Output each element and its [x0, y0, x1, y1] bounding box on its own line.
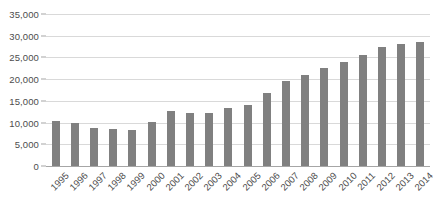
x-tick-label: 1999 [125, 170, 148, 193]
bar [320, 68, 328, 166]
bar [244, 105, 252, 166]
x-tick-label: 2009 [317, 170, 340, 193]
bar [340, 62, 348, 166]
x-tick-label: 2005 [240, 170, 263, 193]
bar-slot [123, 14, 142, 166]
bar-chart: 05,00010,00015,00020,00025,00030,00035,0… [0, 0, 435, 216]
x-tick-label: 2010 [336, 170, 359, 193]
y-tick-label: 20,000 [9, 74, 39, 85]
x-tick-label: 1998 [105, 170, 128, 193]
x-tick-label: 2012 [374, 170, 397, 193]
y-tick-label: 10,000 [9, 117, 39, 128]
bar-slot [411, 14, 430, 166]
bar [416, 42, 424, 166]
bar [282, 81, 290, 166]
bar-slot [392, 14, 411, 166]
bar-slot [315, 14, 334, 166]
bar [397, 44, 405, 166]
bar-slot [296, 14, 315, 166]
bar-slot [161, 14, 180, 166]
x-axis: 1995199619971998199920002001200220032004… [46, 166, 430, 216]
bar [167, 111, 175, 166]
x-tick-label: 2011 [355, 170, 377, 192]
bar [186, 113, 194, 166]
y-tick-label: 5,000 [15, 139, 39, 150]
bar-slot [219, 14, 238, 166]
bar [378, 47, 386, 166]
y-axis: 05,00010,00015,00020,00025,00030,00035,0… [0, 0, 46, 216]
x-tick-label: 2003 [201, 170, 224, 193]
x-tick-label: 2004 [221, 170, 244, 193]
bar-slot [142, 14, 161, 166]
bar-slot [257, 14, 276, 166]
bar [224, 108, 232, 166]
bar-slot [200, 14, 219, 166]
bar [148, 122, 156, 166]
bar-slot [104, 14, 123, 166]
bar-slot [180, 14, 199, 166]
bar [263, 93, 271, 166]
bar [71, 123, 79, 166]
bar-slot [46, 14, 65, 166]
x-tick-label: 2007 [278, 170, 301, 193]
x-tick-label: 2002 [182, 170, 205, 193]
bar [205, 113, 213, 166]
bar-slot [65, 14, 84, 166]
bar [52, 121, 60, 166]
y-tick-label: 35,000 [9, 9, 39, 20]
y-tick-label: 30,000 [9, 30, 39, 41]
x-tick-label: 2014 [413, 170, 435, 193]
bar-slot [353, 14, 372, 166]
bar [128, 130, 136, 166]
bar-slot [276, 14, 295, 166]
x-tick-label: 1995 [48, 170, 71, 193]
x-tick-label: 2013 [393, 170, 416, 193]
bar [109, 129, 117, 166]
y-tick-label: 15,000 [9, 95, 39, 106]
x-tick-label: 1997 [86, 170, 109, 193]
bar-slot [372, 14, 391, 166]
bar [359, 55, 367, 166]
plot-area [46, 14, 430, 166]
x-tick-label: 2006 [259, 170, 282, 193]
bar-slot [84, 14, 103, 166]
bar-slot [238, 14, 257, 166]
y-tick-label: 0 [34, 161, 39, 172]
bar [90, 128, 98, 166]
x-tick-label: 1996 [67, 170, 90, 193]
bar-slot [334, 14, 353, 166]
x-tick-label: 2001 [163, 170, 186, 193]
bar [301, 75, 309, 166]
bars-group [46, 14, 430, 166]
x-tick-label: 2008 [297, 170, 320, 193]
x-tick-label: 2000 [144, 170, 167, 193]
y-tick-label: 25,000 [9, 52, 39, 63]
